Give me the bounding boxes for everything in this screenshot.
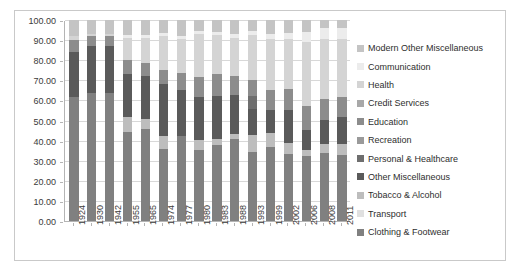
legend-swatch-icon	[357, 63, 364, 70]
legend-item[interactable]: Communication	[357, 57, 505, 75]
y-tick-mark	[60, 81, 63, 82]
bar-column	[194, 20, 203, 221]
x-tick-mark	[216, 223, 217, 226]
legend-item[interactable]: Health	[357, 76, 505, 94]
legend-item[interactable]: Tobacco & Alcohol	[357, 186, 505, 204]
y-tick-mark	[60, 41, 63, 42]
legend-swatch-icon	[357, 45, 364, 52]
legend-label: Clothing & Footwear	[368, 227, 450, 237]
x-tick-mark	[341, 223, 342, 226]
bar-column	[266, 20, 275, 221]
bar-column	[105, 20, 114, 221]
bar-segment	[337, 20, 346, 28]
legend-item[interactable]: Other Miscellaneous	[357, 168, 505, 186]
bar-segment	[123, 60, 132, 74]
x-tick-label: 2006	[309, 205, 319, 225]
bar-segment	[266, 20, 275, 34]
legend-swatch-icon	[357, 137, 364, 144]
bar-segment	[159, 136, 168, 149]
bar-segment	[230, 95, 239, 133]
bar-segment	[105, 20, 114, 34]
bar-segment	[230, 76, 239, 95]
bar-column	[284, 20, 293, 221]
bar-segment	[302, 130, 311, 150]
x-tick-mark	[287, 223, 288, 226]
y-tick-label: 100.00	[28, 17, 56, 26]
x-tick-mark	[305, 223, 306, 226]
y-tick-label: 70.00	[33, 77, 56, 86]
bar-segment	[141, 119, 150, 129]
legend-label: Credit Services	[368, 98, 429, 108]
bar-segment	[248, 80, 257, 96]
bar-segment	[105, 46, 114, 93]
bar-segment	[123, 20, 132, 35]
legend-item[interactable]: Personal & Healthcare	[357, 149, 505, 167]
bar-segment	[248, 96, 257, 109]
bar-column	[248, 20, 257, 221]
x-tick-label: 1977	[184, 205, 194, 225]
y-tick-mark	[60, 162, 63, 163]
x-tick-mark	[127, 223, 128, 226]
bar-segment	[141, 38, 150, 63]
plot-area	[64, 21, 350, 222]
bar-segment	[302, 42, 311, 106]
y-axis: 0.0010.0020.0030.0040.0050.0060.0070.008…	[15, 21, 60, 222]
legend-label: Transport	[368, 209, 406, 219]
chart-legend: Modern Other MiscellaneousCommunicationH…	[357, 39, 505, 241]
bar-column	[123, 20, 132, 221]
y-tick-label: 10.00	[33, 198, 56, 207]
legend-label: Modern Other Miscellaneous	[368, 43, 483, 53]
legend-swatch-icon	[357, 192, 364, 199]
x-tick-mark	[162, 223, 163, 226]
bar-segment	[320, 99, 329, 119]
legend-item[interactable]: Education	[357, 113, 505, 131]
legend-item[interactable]: Recreation	[357, 131, 505, 149]
bar-column	[230, 20, 239, 221]
x-tick-mark	[252, 223, 253, 226]
x-tick-mark	[73, 223, 74, 226]
bar-segment	[87, 20, 96, 34]
bar-segment	[320, 20, 329, 28]
bar-segment	[87, 46, 96, 93]
bar-segment	[159, 36, 168, 70]
x-tick-label: 1965	[148, 205, 158, 225]
bar-segment	[69, 20, 78, 36]
legend-swatch-icon	[357, 155, 364, 162]
bar-segment	[159, 20, 168, 33]
x-tick-mark	[234, 223, 235, 226]
x-tick-label: 1988	[238, 205, 248, 225]
chart-container: 0.0010.0020.0030.0040.0050.0060.0070.008…	[14, 10, 506, 261]
bar-segment	[248, 20, 257, 31]
bar-segment	[123, 117, 132, 132]
bar-segment	[123, 38, 132, 60]
legend-label: Communication	[368, 62, 431, 72]
legend-item[interactable]: Credit Services	[357, 94, 505, 112]
x-tick-mark	[270, 223, 271, 226]
bar-segment	[177, 39, 186, 73]
legend-item[interactable]: Modern Other Miscellaneous	[357, 39, 505, 57]
bar-segment	[266, 39, 275, 90]
bar-segment	[320, 144, 329, 153]
legend-swatch-icon	[357, 81, 364, 88]
bar-column	[337, 20, 346, 221]
legend-item[interactable]: Clothing & Footwear	[357, 223, 505, 241]
legend-item[interactable]: Transport	[357, 205, 505, 223]
x-tick-label: 2002	[291, 205, 301, 225]
bar-segment	[212, 74, 221, 96]
x-tick-label: 1930	[95, 205, 105, 225]
y-tick-mark	[60, 222, 63, 223]
y-tick-label: 60.00	[33, 97, 56, 106]
plot-inner	[64, 21, 350, 222]
bar-segment	[248, 109, 257, 134]
legend-label: Tobacco & Alcohol	[368, 190, 442, 200]
bar-segment	[212, 20, 221, 32]
bar-segment	[266, 110, 275, 132]
y-tick-mark	[60, 142, 63, 143]
bar-segment	[87, 93, 96, 221]
bar-segment	[141, 63, 150, 76]
y-tick-label: 90.00	[33, 37, 56, 46]
bar-segment	[320, 28, 329, 39]
bar-segment	[337, 144, 346, 155]
bar-segment	[141, 20, 150, 35]
x-tick-label: 2011	[345, 206, 355, 225]
